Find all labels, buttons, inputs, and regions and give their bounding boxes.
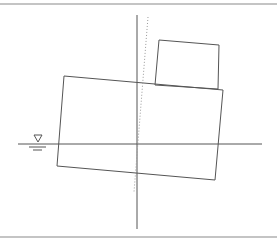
hull-outline bbox=[57, 76, 223, 180]
stability-diagram bbox=[0, 0, 277, 241]
water-level-icon bbox=[29, 135, 46, 150]
heeled-centerline-dotted bbox=[134, 17, 148, 192]
water-level-triangle bbox=[34, 135, 42, 142]
diagram-canvas bbox=[0, 0, 277, 241]
deckhouse-outline bbox=[155, 40, 219, 89]
